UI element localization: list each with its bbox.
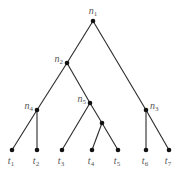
label-t4: t4 [88, 155, 95, 168]
node-t4 [90, 148, 95, 153]
label-t6: t6 [142, 155, 149, 168]
tree-nodes [10, 19, 172, 153]
node-n1 [91, 19, 96, 24]
label-t7: t7 [165, 155, 172, 168]
label-t2: t2 [33, 155, 40, 168]
node-n2 [65, 61, 70, 66]
tree-diagram: n1n2n4n5n3t1t2t3t4t5t6t7 [0, 0, 182, 174]
label-t1: t1 [8, 155, 15, 168]
node-t2 [35, 148, 40, 153]
label-n2: n2 [55, 53, 64, 66]
tree-labels: n1n2n4n5n3t1t2t3t4t5t6t7 [8, 5, 172, 168]
label-n4: n4 [25, 100, 34, 113]
edge-u1-t4 [92, 123, 102, 150]
node-t5 [116, 148, 121, 153]
edge-u1-t5 [102, 123, 118, 150]
edge-n5-t3 [62, 103, 90, 150]
edge-n1-n3 [93, 21, 146, 110]
node-t6 [144, 148, 149, 153]
node-t7 [167, 148, 172, 153]
node-n5 [88, 101, 93, 106]
node-n3 [144, 108, 149, 113]
label-t5: t5 [114, 155, 121, 168]
edge-n4-t1 [12, 110, 37, 150]
node-t3 [60, 148, 65, 153]
tree-edges [12, 21, 169, 150]
node-n4 [35, 108, 40, 113]
node-u1 [100, 121, 105, 126]
edge-n1-n2 [67, 21, 93, 63]
node-t1 [10, 148, 15, 153]
edge-n3-t7 [146, 110, 169, 150]
label-n1: n1 [89, 5, 98, 18]
edge-n2-n4 [37, 63, 67, 110]
edge-n5-u1 [90, 103, 102, 123]
label-n3: n3 [150, 100, 159, 113]
label-t3: t3 [58, 155, 65, 168]
